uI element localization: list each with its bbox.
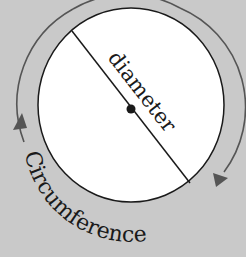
circle-diagram: diameter Circumference bbox=[0, 0, 246, 257]
arrowhead-down-icon bbox=[213, 173, 228, 187]
arrowhead-up-icon bbox=[13, 113, 27, 130]
center-point bbox=[127, 105, 136, 114]
